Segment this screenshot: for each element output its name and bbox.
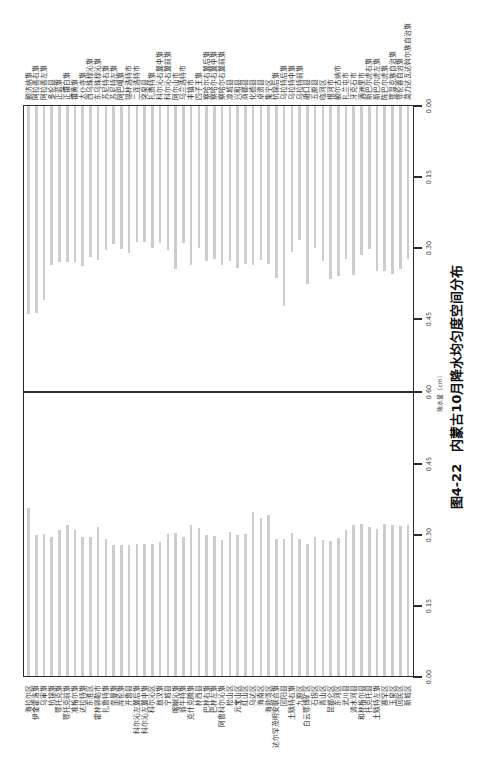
bar-left-panel (329, 541, 332, 675)
bar-left-panel (35, 535, 38, 675)
bar-left-panel (66, 525, 69, 675)
x-tick-label: 0.30 (425, 520, 433, 550)
bar-right-panel (35, 106, 38, 313)
bar-right-panel (58, 106, 61, 262)
bar-left-panel (298, 539, 301, 675)
x-axis-tick (413, 176, 422, 177)
bar-right-panel (399, 106, 402, 268)
x-tick-label: 0.15 (425, 591, 433, 621)
bar-left-panel (43, 534, 46, 676)
bar-right-panel (74, 106, 77, 262)
x-axis-tick (413, 463, 422, 464)
x-tick-label: 0.15 (425, 162, 433, 192)
bar-right-panel (50, 106, 53, 265)
bar-left-panel (368, 527, 371, 676)
bar-left-panel (275, 539, 278, 676)
bar-left-panel (128, 545, 131, 676)
bar-right-panel (306, 106, 309, 283)
x-tick-label: 0.00 (425, 662, 433, 692)
bar-right-panel (291, 106, 294, 252)
bar-right-panel (383, 106, 386, 271)
x-axis-tick (413, 676, 422, 677)
bar-left-panel (81, 537, 84, 676)
bar-right-panel (120, 106, 123, 248)
bar-left-panel (159, 542, 162, 676)
bar-right-panel (221, 106, 224, 264)
bar-left-panel (283, 539, 286, 676)
bar-left-panel (89, 537, 92, 676)
x-tick-label: 0.45 (425, 449, 433, 479)
bar-left-panel (252, 512, 255, 676)
x-tick-label: 0.00 (425, 91, 433, 121)
bar-right-panel (229, 106, 232, 261)
bar-left-panel (136, 544, 139, 676)
figure-number: 图4-22 (449, 464, 464, 510)
bar-left-panel (182, 537, 185, 676)
bar-left-panel (198, 528, 201, 676)
category-label: 莫力达瓦达斡尔族自治旗 (404, 0, 412, 100)
bar-left-panel (267, 515, 270, 675)
bar-right-panel (190, 106, 193, 265)
bar-right-panel (275, 106, 278, 277)
bar-left-panel (306, 544, 309, 676)
bar-right-panel (391, 106, 394, 274)
bar-right-panel (182, 106, 185, 243)
bar-left-panel (151, 544, 154, 676)
bar-right-panel (407, 106, 410, 258)
bar-right-panel (143, 106, 146, 242)
bar-right-panel (97, 106, 100, 260)
x-tick-label: 0.45 (425, 304, 433, 334)
figure-title: 内蒙古10月降水均匀度空间分布 (449, 265, 464, 452)
bar-right-panel (27, 106, 30, 314)
x-axis-tick (413, 247, 422, 248)
bar-right-panel (213, 106, 216, 258)
bar-right-panel (298, 106, 301, 240)
bar-right-panel (81, 106, 84, 266)
bar-right-panel (283, 106, 286, 306)
x-axis-tick (413, 318, 422, 319)
bar-right-panel (376, 106, 379, 271)
bar-left-panel (205, 535, 208, 676)
x-tick-label: 0.60 (425, 377, 433, 407)
bar-right-panel (329, 106, 332, 279)
bar-left-panel (167, 534, 170, 676)
bar-left-panel (314, 537, 317, 676)
bar-right-panel (368, 106, 371, 249)
bar-right-panel (360, 106, 363, 255)
bar-left-panel (229, 532, 232, 676)
bar-left-panel (27, 508, 30, 676)
bar-left-panel (399, 526, 402, 675)
bar-left-panel (407, 525, 410, 676)
bar-left-panel (213, 536, 216, 676)
bar-right-panel (174, 106, 177, 269)
bar-left-panel (337, 538, 340, 676)
bar-left-panel (322, 540, 325, 675)
bar-left-panel (174, 533, 177, 676)
bar-left-panel (383, 524, 386, 675)
bar-left-panel (112, 545, 115, 676)
bar-left-panel (58, 531, 61, 676)
bar-left-panel (105, 539, 108, 675)
category-label: 新城区 (404, 685, 412, 762)
bar-right-panel (105, 106, 108, 250)
bar-right-panel (322, 106, 325, 261)
bar-right-panel (205, 106, 208, 261)
bar-left-panel (345, 530, 348, 676)
bar-right-panel (267, 106, 270, 264)
x-axis-title: 降水量（cm） (436, 352, 444, 432)
bar-left-panel (50, 537, 53, 676)
rotated-figure: 海拉尔区伊金霍洛旗乌审旗杭锦旗鄂托克旗鄂托克前旗准格尔旗达拉特旗东胜区霍林郭勒市… (0, 0, 482, 762)
bar-left-panel (376, 529, 379, 676)
bar-left-panel (236, 535, 239, 675)
bar-left-panel (260, 518, 263, 676)
bar-left-panel (244, 534, 247, 676)
bar-left-panel (221, 540, 224, 675)
center-divider-line (23, 391, 422, 392)
bar-right-panel (89, 106, 92, 257)
bar-right-panel (136, 106, 139, 242)
bar-right-panel (236, 106, 239, 267)
bar-right-panel (337, 106, 340, 276)
bar-right-panel (345, 106, 348, 258)
bar-right-panel (159, 106, 162, 243)
bar-right-panel (314, 106, 317, 248)
